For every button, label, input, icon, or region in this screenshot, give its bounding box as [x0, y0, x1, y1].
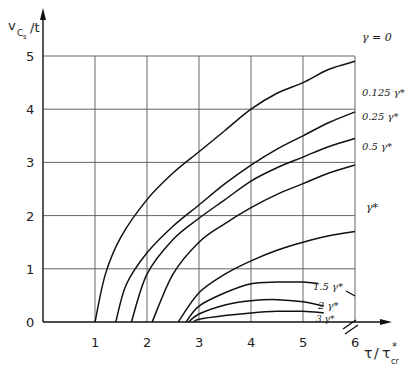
- axis-break-marks: [343, 291, 358, 334]
- x-axis-label-star: *: [392, 341, 397, 352]
- y-tick-label: 1: [26, 262, 34, 277]
- y-tick-label: 3: [26, 155, 34, 170]
- x-axis-label-tau: τ: [364, 345, 372, 361]
- curve-label: 0.125 γ*: [362, 87, 405, 98]
- curve-series-2: [131, 138, 355, 322]
- curve-series-3: [152, 165, 355, 322]
- x-tick-label: 1: [91, 335, 99, 350]
- curve-label: γ*: [366, 201, 379, 214]
- y-axis-label-tail: /t: [30, 20, 39, 35]
- x-tick-label: 3: [195, 335, 203, 350]
- y-axis-arrow-icon: [40, 8, 46, 20]
- x-tick-label: 4: [247, 335, 255, 350]
- curve-label: 0.5 γ*: [362, 141, 392, 152]
- chart-canvas: 123456 012345 v C s /t τ / τ * cr γ = 00…: [0, 0, 413, 373]
- x-axis-label-slash: /: [374, 345, 379, 361]
- x-tick-label: 2: [143, 335, 151, 350]
- curve-label: 0.25 γ*: [362, 111, 398, 122]
- y-tick-label: 4: [26, 102, 34, 117]
- y-tick-label: 5: [26, 49, 34, 64]
- y-tick-label: 0: [26, 315, 34, 330]
- y-axis-label-subsub: s: [23, 33, 27, 41]
- x-axis-arrow-icon: [380, 319, 392, 325]
- curve-labels: γ = 00.125 γ*0.25 γ*0.5 γ*γ*1.5 γ*2 γ*3 …: [313, 31, 405, 324]
- curve-series-7: [194, 311, 324, 322]
- x-tick-label: 6: [351, 335, 359, 350]
- x-tick-labels: 123456: [91, 335, 359, 350]
- curve-label: 2 γ*: [317, 300, 339, 311]
- curve-label: γ = 0: [362, 31, 392, 44]
- y-tick-labels: 012345: [26, 49, 34, 330]
- curve-label: 3 γ*: [316, 314, 335, 324]
- x-axis-label-tau2: τ: [382, 345, 390, 361]
- y-tick-label: 2: [26, 209, 34, 224]
- x-axis-label-sub: cr: [391, 357, 399, 366]
- curve-label: 1.5 γ*: [313, 281, 343, 292]
- x-tick-label: 5: [299, 335, 307, 350]
- y-axis-label-v: v: [8, 18, 16, 33]
